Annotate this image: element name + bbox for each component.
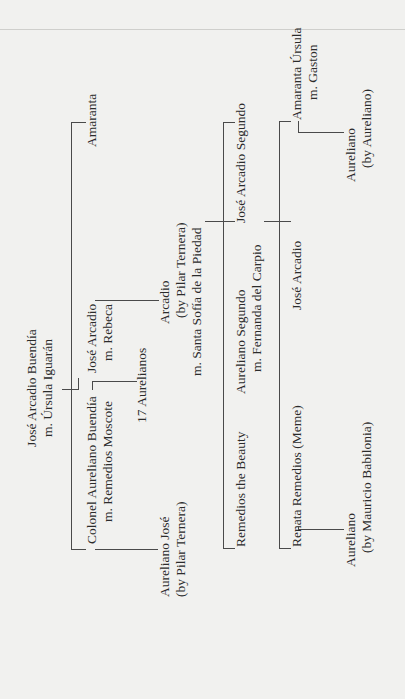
node-note: (by Pilar Ternera): [173, 501, 189, 597]
node-spouse: m. Santa Sofía de la Piedad: [189, 214, 205, 378]
node-note: (by Aureliano): [359, 89, 375, 182]
node-aureliano-babilonia: Aureliano (by Mauricio Babilonia): [343, 422, 375, 567]
node-spouse: m. Úrsula Iguarán: [40, 313, 56, 463]
node-jose-arcadio-gen4: José Arcadio: [289, 241, 305, 310]
node-note: (by Pilar Ternera): [173, 214, 189, 378]
connector-aureliano-segundo-stem: [264, 221, 279, 222]
node-name: Arcadio: [157, 214, 173, 378]
node-name: Remedios the Beauty: [233, 432, 249, 547]
node-name: Colonel Aureliano Buendía: [84, 396, 100, 544]
connector-tick-colonel: [71, 549, 86, 550]
node-name: Aureliano Segundo: [233, 245, 249, 394]
connector-jose-arcadio-stub: [71, 389, 79, 390]
connector-colonel-seventeen: [92, 381, 137, 382]
node-name: José Arcadio: [289, 241, 305, 310]
connector-colonel-aureliano-jose: [95, 549, 158, 550]
node-spouse: m. Remedios Moscote: [100, 396, 116, 544]
node-name: Aureliano José: [157, 501, 173, 597]
node-name: Aureliano: [343, 89, 359, 182]
connector-tick-renata: [279, 548, 291, 549]
family-tree-diagram: José Arcadio Buendía m. Úrsula Iguarán C…: [0, 0, 405, 699]
node-remedios-the-beauty: Remedios the Beauty: [233, 432, 249, 547]
connector-jose-arcadio-arcadio: [95, 300, 159, 301]
connector-colonel-dash: [92, 381, 93, 390]
node-name: Renata Remedios (Meme): [289, 405, 305, 547]
connector-amaranta-aureliano: [298, 132, 344, 133]
node-name: José Arcadio Segundo: [233, 103, 249, 223]
node-aureliano-segundo: Aureliano Segundo m. Fernanda del Carpio: [233, 245, 265, 394]
connector-arcadio-stem: [205, 221, 223, 222]
node-name: José Arcadio: [84, 304, 100, 373]
node-name: 17 Aurelianos: [134, 348, 150, 423]
connector-gen2-bar: [71, 122, 72, 550]
node-name: Amaranta Úrsula: [289, 27, 305, 120]
node-note: (by Mauricio Babilonia): [359, 422, 375, 567]
node-name: Amaranta: [84, 94, 100, 147]
node-arcadio: Arcadio (by Pilar Ternera) m. Santa Sofí…: [157, 214, 205, 378]
node-jose-arcadio-segundo: José Arcadio Segundo: [233, 103, 249, 223]
node-aureliano-by-aureliano: Aureliano (by Aureliano): [343, 89, 375, 182]
node-name: Aureliano: [343, 422, 359, 567]
connector-gen1-stem: [62, 389, 71, 390]
node-jose-arcadio-rebeca: José Arcadio m. Rebeca: [84, 304, 116, 373]
connector-renata-tick: [298, 526, 299, 530]
node-amaranta: Amaranta: [84, 94, 100, 147]
node-spouse: m. Fernanda del Carpio: [249, 245, 265, 394]
connector-gen3-bar: [223, 122, 224, 549]
node-spouse: m. Rebeca: [100, 304, 116, 373]
node-renata-remedios: Renata Remedios (Meme): [289, 405, 305, 547]
connector-tick-amaranta-ursula: [279, 121, 291, 122]
connector-renata-aureliano: [298, 529, 344, 530]
node-jose-arcadio-buendia: José Arcadio Buendía m. Úrsula Iguarán: [24, 313, 56, 463]
node-amaranta-ursula: Amaranta Úrsula m. Gaston: [289, 27, 321, 120]
node-colonel-aureliano: Colonel Aureliano Buendía m. Remedios Mo…: [84, 396, 116, 544]
node-17-aurelianos: 17 Aurelianos: [134, 348, 150, 423]
node-spouse: m. Gaston: [305, 27, 321, 120]
connector-tick-jose-arcadio: [279, 221, 291, 222]
connector-amaranta-tick: [298, 121, 299, 133]
connector-gen4-bar: [279, 121, 280, 549]
node-aureliano-jose: Aureliano José (by Pilar Ternera): [157, 501, 189, 597]
node-name: José Arcadio Buendía: [24, 313, 40, 463]
connector-tick-remedios: [223, 548, 235, 549]
